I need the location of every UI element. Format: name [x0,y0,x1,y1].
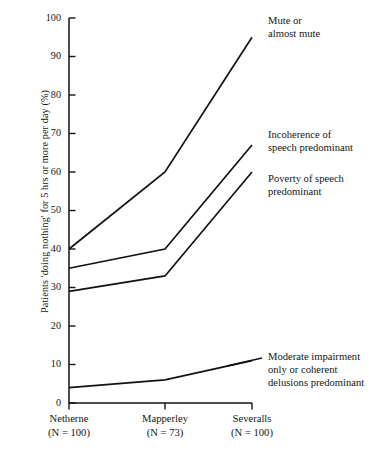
x-tick-label-severalls: Severalls(N = 100) [192,412,312,439]
annotation-leader-3 [227,358,262,366]
y-tick-label: 10 [29,359,61,369]
series-annotation-1: Incoherence of speech predominant [268,128,353,154]
y-tick-label: 100 [29,13,61,23]
series-line-0 [69,37,252,249]
x-category-name: Severalls [192,412,312,426]
series-line-3 [69,361,252,388]
series-line-2 [69,172,252,291]
y-tick-label: 30 [29,282,61,292]
y-tick-label: 70 [29,128,61,138]
y-axis-title: Patients 'doing nothing' for 5 hrs or mo… [39,72,50,332]
series-annotation-3: Moderate impairment only or coherent del… [268,350,364,389]
series-line-1 [69,145,252,268]
y-tick-label: 20 [29,321,61,331]
y-tick-label: 50 [29,205,61,215]
y-tick-label: 40 [29,244,61,254]
y-tick-label: 90 [29,51,61,61]
line-chart-figure: Patients 'doing nothing' for 5 hrs or mo… [0,0,377,453]
y-tick-label: 80 [29,90,61,100]
x-category-count: (N = 100) [192,426,312,440]
y-tick-label: 60 [29,167,61,177]
series-annotation-2: Poverty of speech predominant [268,172,344,198]
y-tick-label: 0 [29,398,61,408]
series-annotation-0: Mute or almost mute [268,14,320,40]
